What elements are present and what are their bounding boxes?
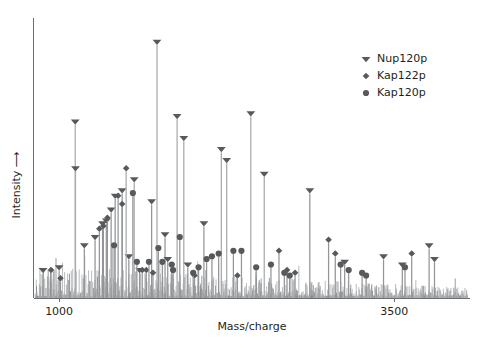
data-point-marker — [71, 166, 80, 171]
legend: Nup120pKap122pKap120p — [362, 52, 428, 99]
data-point-marker — [346, 267, 352, 273]
legend-label-kap120p: Kap120p — [377, 86, 426, 99]
data-point-marker — [179, 136, 188, 141]
data-point-marker — [216, 250, 222, 256]
spectrum-plot: 10003500 Mass/charge Intensity ⟶ Nup120p… — [0, 0, 488, 348]
data-point-marker — [150, 270, 157, 277]
data-point-marker — [338, 261, 344, 267]
legend-marker-triangle-down — [362, 57, 371, 62]
data-point-marker — [123, 165, 130, 172]
data-point-marker — [332, 250, 339, 257]
data-point-marker — [408, 250, 415, 257]
x-tick-label: 1000 — [45, 305, 73, 318]
series-kap122p — [48, 165, 415, 298]
data-point-marker — [379, 254, 388, 259]
data-point-marker — [153, 40, 162, 45]
data-point-marker — [118, 188, 127, 193]
data-point-marker — [71, 119, 80, 124]
data-point-marker — [425, 243, 434, 248]
data-point-marker — [276, 248, 283, 255]
mass-spectrum-figure: 10003500 Mass/charge Intensity ⟶ Nup120p… — [0, 0, 488, 348]
x-axis-ticks: 10003500 — [45, 298, 408, 318]
data-point-marker — [161, 232, 170, 237]
data-point-marker — [325, 237, 332, 244]
data-point-marker — [147, 199, 156, 204]
data-point-marker — [281, 270, 287, 276]
data-point-marker — [134, 259, 140, 265]
data-point-marker — [91, 235, 100, 240]
data-point-marker — [130, 190, 136, 196]
data-point-marker — [107, 207, 116, 212]
data-point-marker — [287, 272, 293, 278]
data-point-marker — [203, 256, 209, 262]
data-point-marker — [183, 262, 192, 267]
data-point-marker — [159, 259, 165, 265]
data-point-marker — [111, 242, 117, 248]
data-point-marker — [209, 253, 215, 259]
legend-label-nup120p: Nup120p — [377, 52, 427, 65]
data-point-marker — [146, 259, 152, 265]
data-point-marker — [238, 248, 244, 254]
legend-marker-circle — [363, 90, 369, 96]
data-point-marker — [170, 267, 176, 273]
y-axis-title: Intensity ⟶ — [10, 151, 23, 218]
data-point-marker — [260, 172, 269, 177]
data-point-marker — [169, 261, 175, 267]
data-point-marker — [268, 261, 274, 267]
data-point-marker — [230, 248, 236, 254]
data-point-marker — [253, 264, 259, 270]
data-point-marker — [177, 234, 183, 240]
data-point-marker — [222, 158, 231, 163]
data-point-marker — [155, 245, 161, 251]
data-point-marker — [246, 111, 255, 116]
x-axis-title: Mass/charge — [217, 320, 286, 333]
data-point-marker — [119, 201, 126, 208]
legend-label-kap122p: Kap122p — [377, 69, 426, 82]
legend-marker-diamond — [363, 73, 370, 80]
data-point-marker — [190, 270, 196, 276]
data-point-marker — [195, 264, 201, 270]
data-point-marker — [80, 243, 89, 248]
data-point-marker — [200, 221, 209, 226]
data-point-marker — [173, 114, 182, 119]
data-point-marker — [430, 257, 439, 262]
data-point-marker — [305, 188, 314, 193]
data-point-marker — [363, 272, 369, 278]
x-tick-label: 3500 — [380, 305, 408, 318]
data-point-marker — [217, 147, 226, 152]
data-point-marker — [234, 272, 241, 279]
data-point-marker — [402, 264, 408, 270]
data-point-marker — [130, 177, 139, 182]
